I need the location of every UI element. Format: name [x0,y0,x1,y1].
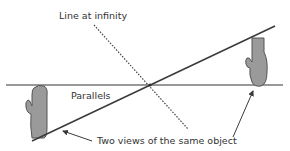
object-right-icon [246,38,268,86]
label-parallels: Parallels [71,90,111,101]
object-left-icon [26,85,47,138]
projective-diagram: Line at infinity Parallels Two views of … [0,0,290,151]
line-at-infinity [94,25,188,129]
label-two-views: Two views of the same object [96,135,237,146]
intersection-point [148,83,151,86]
arrow-right [233,91,253,137]
arrow-left [63,131,92,141]
label-line-at-infinity: Line at infinity [59,10,127,21]
